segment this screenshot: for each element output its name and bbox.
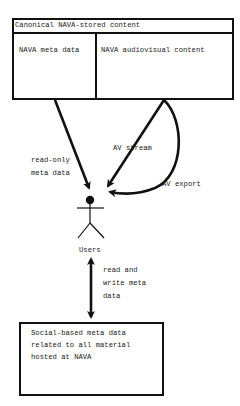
users-label: Users (79, 244, 101, 256)
av-export-label: AV export (162, 178, 201, 190)
read-write-label-line3: data (103, 290, 120, 302)
read-write-label-line2: write meta (103, 277, 146, 289)
social-meta-line3: hosted at NAVA (31, 351, 91, 363)
av-stream-label: AV stream (113, 142, 152, 154)
read-only-label-line1: read-only (31, 154, 70, 166)
read-write-label-line1: read and (103, 264, 138, 276)
read-only-label-line2: meta data (31, 167, 70, 179)
users-actor-icon (77, 196, 104, 238)
social-meta-line1: Social-based meta data (31, 327, 126, 339)
social-meta-line2: related to all material (31, 339, 130, 351)
